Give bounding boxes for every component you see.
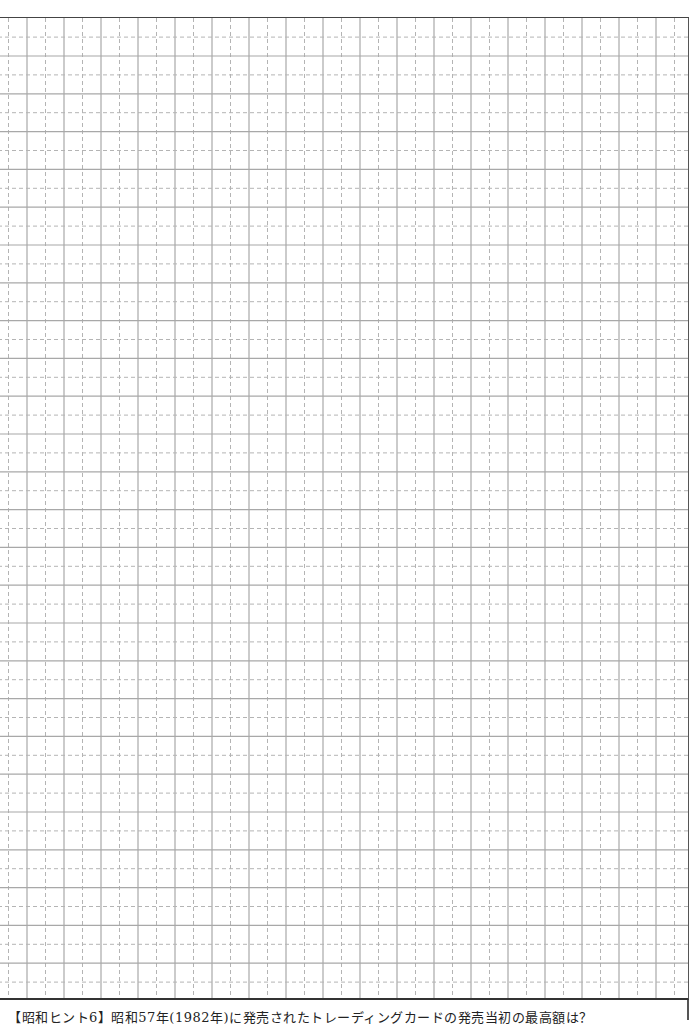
writing-grid	[0, 17, 689, 1000]
hint-caption: 【昭和ヒント6】昭和57年(1982年)に発売されたトレーディングカードの発売当…	[8, 1010, 593, 1026]
grid-lines	[0, 18, 689, 1000]
right-margin-rule	[687, 1000, 689, 1020]
